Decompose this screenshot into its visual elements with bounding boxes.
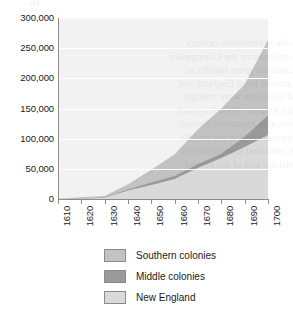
x-tick: [81, 199, 82, 204]
y-tick-label: 300,000: [2, 13, 54, 23]
gridline: [58, 48, 268, 49]
x-tick-label: 1640: [132, 206, 142, 226]
x-axis-line: [58, 199, 269, 200]
x-tick-label: 1610: [62, 206, 72, 226]
gridline: [58, 169, 268, 170]
legend-label: Middle colonies: [136, 272, 205, 282]
legend-swatch: [104, 249, 126, 262]
gridline: [58, 139, 268, 140]
x-tick: [105, 199, 106, 204]
x-tick-label: 1630: [109, 206, 119, 226]
x-tick-label: 1700: [272, 206, 282, 226]
x-tick: [175, 199, 176, 204]
x-tick: [151, 199, 152, 204]
plot-area: through the seventeenth centurytobacco c…: [58, 18, 268, 199]
x-tick-label: 1620: [85, 206, 95, 226]
x-tick-label: 1690: [249, 206, 259, 226]
legend-label: Southern colonies: [136, 251, 216, 261]
legend-item: Middle colonies: [104, 266, 254, 287]
y-tick-label: 150,000: [2, 104, 54, 114]
x-tick: [128, 199, 129, 204]
gridline: [58, 18, 268, 19]
x-tick: [58, 199, 59, 204]
y-tick-label: 0: [2, 194, 54, 204]
legend-label: New England: [136, 293, 195, 303]
y-tick-label: 50,000: [2, 164, 54, 174]
legend-item: New England: [104, 287, 254, 308]
y-tick-label: 200,000: [2, 73, 54, 83]
x-tick: [268, 199, 269, 204]
x-tick: [221, 199, 222, 204]
x-tick-label: 1650: [155, 206, 165, 226]
legend-swatch: [104, 291, 126, 304]
legend-item: Southern colonies: [104, 245, 254, 266]
gridline: [58, 78, 268, 79]
y-tick-label: 250,000: [2, 43, 54, 53]
stacked-area-chart-figure: (b) through the seventeenth centurytobac…: [0, 0, 293, 323]
y-axis-tick-labels: 050,000100,000150,000200,000250,000300,0…: [0, 0, 54, 217]
x-tick-label: 1680: [225, 206, 235, 226]
legend-swatch: [104, 270, 126, 283]
x-tick: [198, 199, 199, 204]
x-tick: [245, 199, 246, 204]
chart-legend: Southern coloniesMiddle coloniesNew Engl…: [104, 245, 254, 308]
y-tick-label: 100,000: [2, 134, 54, 144]
x-tick-label: 1660: [179, 206, 189, 226]
gridline: [58, 109, 268, 110]
x-tick-label: 1670: [202, 206, 212, 226]
y-axis-line: [58, 18, 59, 200]
